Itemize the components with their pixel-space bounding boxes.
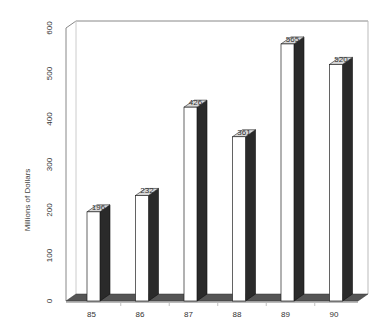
bar: 520	[330, 55, 353, 301]
y-tick-label: 0	[45, 298, 54, 303]
y-tick-label: 500	[45, 66, 54, 80]
x-tick-label: 88	[233, 310, 242, 319]
y-tick-label: 200	[45, 203, 54, 217]
chart-walls	[66, 21, 368, 301]
x-tick-label: 86	[136, 310, 145, 319]
x-tick-label: 89	[281, 310, 290, 319]
bar-data-label: 361	[237, 128, 251, 137]
bar-data-label: 565	[286, 35, 300, 44]
x-tick-label: 85	[87, 310, 96, 319]
y-axis-label: Millions of Dollars	[23, 169, 32, 232]
x-tick-label: 87	[184, 310, 193, 319]
bar: 361	[233, 128, 256, 301]
chart-floor	[66, 294, 368, 302]
bar-data-label: 196	[92, 203, 106, 212]
bar-series: 196232426361565520	[87, 35, 353, 301]
y-tick-label: 100	[45, 248, 54, 262]
y-tick-label: 300	[45, 157, 54, 171]
bar: 196	[87, 203, 110, 301]
bar-data-label: 520	[334, 55, 348, 64]
bar-data-label: 426	[189, 98, 203, 107]
x-tick-label: 90	[330, 310, 339, 319]
bar-chart: 0100200300400500600 196232426361565520 8…	[0, 0, 385, 332]
bar-data-label: 232	[140, 186, 154, 195]
x-axis: 858687888990	[87, 303, 339, 319]
y-tick-label: 600	[45, 21, 54, 35]
y-axis: 0100200300400500600	[45, 21, 54, 303]
bar: 426	[184, 98, 207, 301]
bar: 565	[281, 35, 304, 301]
y-tick-label: 400	[45, 112, 54, 126]
bar: 232	[136, 186, 159, 301]
